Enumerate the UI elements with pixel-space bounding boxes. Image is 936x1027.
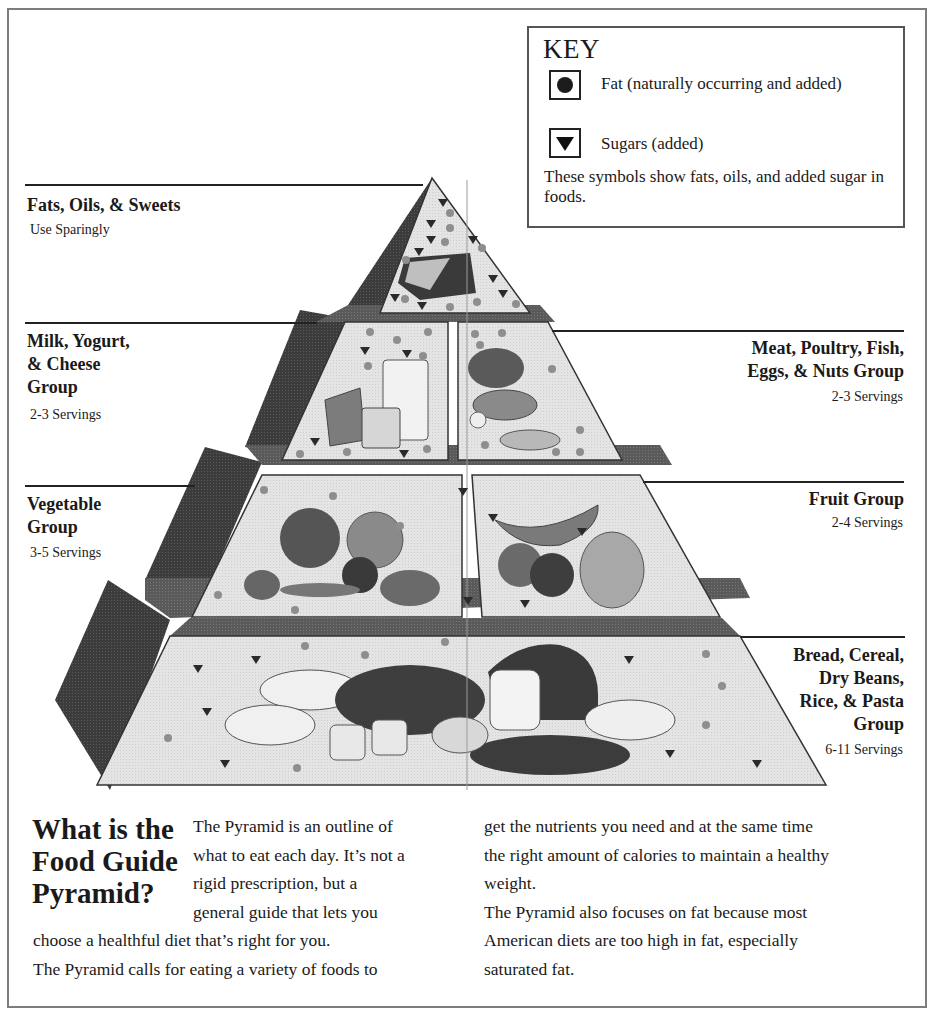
group-name-line: Dry Beans, xyxy=(793,667,904,690)
group-name-line: Bread, Cereal, xyxy=(793,644,904,667)
group-name-line: Eggs, & Nuts Group xyxy=(747,360,904,383)
headline-line: Food Guide xyxy=(32,845,178,877)
tier-fruit xyxy=(472,475,720,617)
label-meat-poultry-fish: Meat, Poultry, Fish, Eggs, & Nuts Group xyxy=(747,337,904,383)
servings-milk: 2-3 Servings xyxy=(30,407,101,423)
servings-fats: Use Sparingly xyxy=(30,222,110,238)
label-bread-cereal-rice-pasta: Bread, Cereal, Dry Beans, Rice, & Pasta … xyxy=(793,644,904,736)
group-name-line: Vegetable xyxy=(27,493,101,516)
label-milk-yogurt-cheese: Milk, Yogurt, & Cheese Group xyxy=(27,330,130,399)
body-line: The Pyramid calls for eating a variety o… xyxy=(33,955,378,984)
rule-milk xyxy=(25,322,317,324)
body-line: weight. xyxy=(484,869,829,898)
servings-bread: 6-11 Servings xyxy=(825,742,903,758)
headline-line: What is the xyxy=(32,813,178,845)
group-name-line: Fruit Group xyxy=(809,488,904,511)
article-col1-full: choose a healthful diet that’s right for… xyxy=(33,926,378,983)
body-line: The Pyramid also focuses on fat because … xyxy=(484,898,829,927)
body-line: general guide that lets you xyxy=(193,898,405,927)
rule-vegetable xyxy=(25,485,195,487)
body-line: choose a healthful diet that’s right for… xyxy=(33,926,378,955)
body-line: saturated fat. xyxy=(484,955,829,984)
body-line: rigid prescription, but a xyxy=(193,869,405,898)
rule-meat xyxy=(552,330,904,332)
group-name-line: Group xyxy=(793,713,904,736)
group-name-line: Meat, Poultry, Fish, xyxy=(747,337,904,360)
rule-fats xyxy=(25,184,423,186)
label-fats-oils-sweets: Fats, Oils, & Sweets xyxy=(27,194,180,217)
label-vegetable: Vegetable Group xyxy=(27,493,101,539)
body-line: American diets are too high in fat, espe… xyxy=(484,926,829,955)
group-name-line: Rice, & Pasta xyxy=(793,690,904,713)
body-line: The Pyramid is an outline of xyxy=(193,812,405,841)
body-line: the right amount of calories to maintain… xyxy=(484,841,829,870)
group-name-line: Milk, Yogurt, xyxy=(27,330,130,353)
article-col2: get the nutrients you need and at the sa… xyxy=(484,812,829,983)
servings-fruit: 2-4 Servings xyxy=(832,515,903,531)
rule-bread xyxy=(741,636,905,638)
group-name-line: Group xyxy=(27,516,101,539)
label-fruit: Fruit Group xyxy=(809,488,904,511)
article-headline: What is the Food Guide Pyramid? xyxy=(32,813,178,909)
group-name-line: Group xyxy=(27,376,130,399)
group-name-line: Fats, Oils, & Sweets xyxy=(27,194,180,217)
body-line: get the nutrients you need and at the sa… xyxy=(484,812,829,841)
group-name-line: & Cheese xyxy=(27,353,130,376)
body-line: what to eat each day. It’s not a xyxy=(193,841,405,870)
headline-line: Pyramid? xyxy=(32,877,178,909)
servings-meat: 2-3 Servings xyxy=(832,389,903,405)
article-col1-wrap: The Pyramid is an outline of what to eat… xyxy=(193,812,405,926)
servings-vegetable: 3-5 Servings xyxy=(30,545,101,561)
rule-fruit xyxy=(643,481,904,483)
